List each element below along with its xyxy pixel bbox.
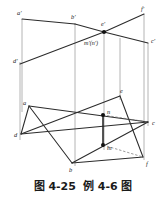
label-n: n — [107, 108, 110, 115]
front-view-labels: a' b' e' f' c' d' m'(n') — [13, 5, 156, 64]
label-b-prime: b' — [71, 13, 76, 20]
label-d-prime: d' — [13, 57, 18, 64]
point-n-dot — [101, 113, 105, 117]
drawing-canvas: a' b' e' f' c' d' m'(n') a b c d e f m n — [0, 0, 166, 172]
label-m: m — [107, 144, 112, 151]
label-d: d — [14, 131, 18, 138]
label-e: e — [120, 87, 123, 94]
projection-lines-group — [20, 14, 148, 166]
label-b: b — [69, 166, 72, 172]
label-e-prime: e' — [101, 20, 106, 27]
edge-ef-prime — [104, 14, 144, 32]
label-c: c — [152, 119, 155, 126]
caption-title: 例 4-6 图 — [83, 177, 133, 193]
front-view-group — [20, 14, 148, 64]
edge-ec-prime — [104, 32, 148, 43]
figure-caption: 图 4-25 例 4-6 图 — [0, 174, 166, 196]
point-m-dot — [101, 143, 105, 147]
edge-be-prime — [75, 24, 104, 32]
dashed-nc — [103, 115, 148, 122]
edge-ab — [29, 106, 72, 163]
point-mn-prime-dot — [102, 30, 106, 34]
edge-fb — [72, 157, 143, 163]
technical-drawing: a' b' e' f' c' d' m'(n') a b c d e f m n — [0, 0, 166, 172]
label-f-prime: f' — [141, 5, 145, 12]
edge-de-prime — [20, 32, 104, 64]
label-f: f — [146, 160, 149, 167]
label-mn-prime: m'(n') — [84, 40, 98, 47]
label-a: a — [23, 99, 26, 106]
edge-ab-prime — [22, 19, 75, 24]
caption-number: 图 4-25 — [34, 177, 76, 193]
top-view-group — [21, 96, 148, 163]
figure-container: a' b' e' f' c' d' m'(n') a b c d e f m n… — [0, 0, 166, 199]
label-c-prime: c' — [151, 37, 156, 44]
label-a-prime: a' — [17, 9, 22, 16]
